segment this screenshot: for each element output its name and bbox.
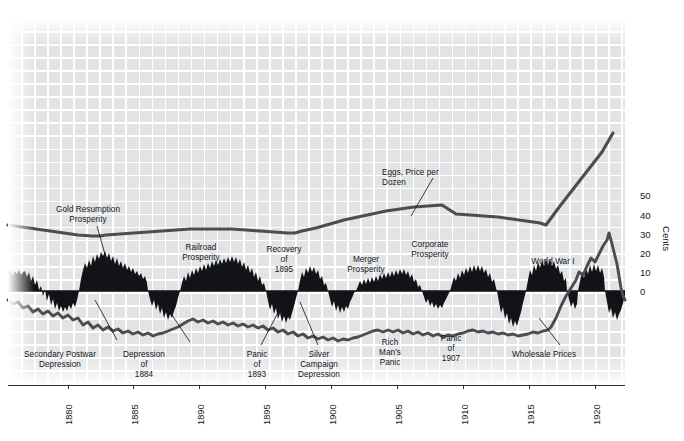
x-tick-1900: 1900 xyxy=(328,404,338,425)
eggs-series-label: Eggs, Price per Dozen xyxy=(382,168,502,188)
annotation-panic-of-1893: Panic of 1893 xyxy=(236,350,278,380)
y-tick-30: 30 xyxy=(640,229,651,240)
x-tick-1910: 1910 xyxy=(460,404,470,425)
x-tick-mark-1920 xyxy=(595,385,596,389)
annotation-corporate-prosperity: Corporate Prosperity xyxy=(400,240,460,260)
leader-panic-1893 xyxy=(261,305,282,345)
x-tick-mark-1910 xyxy=(463,385,464,389)
x-tick-1880: 1880 xyxy=(64,404,74,425)
annotation-secondary-postwar-depression: Secondary Postwar Depression xyxy=(8,350,112,370)
x-tick-1905: 1905 xyxy=(394,404,404,425)
x-axis-line xyxy=(8,385,625,386)
x-tick-mark-1900 xyxy=(331,385,332,389)
y-tick-20: 20 xyxy=(640,248,651,259)
x-tick-mark-1905 xyxy=(397,385,398,389)
leader-depression-1884 xyxy=(166,306,190,342)
annotation-recovery-of-1895: Recovery of 1895 xyxy=(260,245,308,275)
annotation-depression-of-1884: Depression of 1884 xyxy=(118,350,170,380)
x-tick-mark-1880 xyxy=(68,385,69,389)
y-axis-title-cents: Cents xyxy=(661,226,672,251)
x-tick-mark-1895 xyxy=(265,385,266,389)
x-tick-1885: 1885 xyxy=(130,404,140,425)
x-tick-1890: 1890 xyxy=(196,404,206,425)
x-tick-mark-1885 xyxy=(133,385,134,389)
annotation-panic-of-1907: Panic of 1907 xyxy=(432,334,470,364)
y-tick-40: 40 xyxy=(640,210,651,221)
wholesale-series-label: Wholesale Prices xyxy=(512,350,622,360)
annotation-merger-prosperity: Merger Prosperity xyxy=(340,255,392,275)
annotation-leader-lines xyxy=(95,178,560,345)
y-tick-10: 10 xyxy=(640,267,651,278)
x-tick-1915: 1915 xyxy=(526,404,536,425)
y-tick-0: 0 xyxy=(640,286,645,297)
x-tick-1920: 1920 xyxy=(592,404,602,425)
y-tick-50: 50 xyxy=(640,190,651,201)
leader-secondary-postwar xyxy=(95,300,117,340)
annotation-railroad-prosperity: Railroad Prosperity xyxy=(172,243,230,263)
annotation-silver-campaign-depression: Silver Campaign Depression xyxy=(288,350,350,380)
annotation-gold-resumption-prosperity: Gold Resumption Prosperity xyxy=(46,205,130,225)
annotation-world-war-i: World War I xyxy=(522,257,584,267)
annotation-rich-mans-panic: Rich Man's Panic xyxy=(372,338,408,368)
x-tick-1895: 1895 xyxy=(262,404,272,425)
x-tick-mark-1890 xyxy=(199,385,200,389)
x-tick-mark-1915 xyxy=(529,385,530,389)
historical-business-activity-chart: Eggs, Price per Dozen Wholesale Prices G… xyxy=(0,0,684,441)
